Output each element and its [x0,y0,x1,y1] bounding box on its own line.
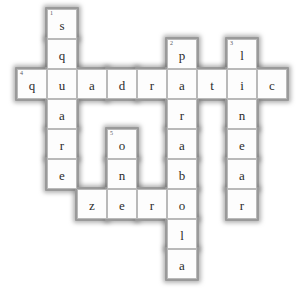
crossword-cell[interactable]: r [137,189,167,219]
cell-letter: r [168,100,196,128]
cell-letter: o [108,130,136,158]
crossword-cell[interactable]: d [107,69,137,99]
crossword-cell[interactable]: a [47,99,77,129]
crossword-cell[interactable]: n [227,99,257,129]
crossword-cell[interactable]: 4q [17,69,47,99]
cell-letter: i [228,70,256,98]
crossword-cell[interactable]: l [167,219,197,249]
cell-letter: q [18,70,46,98]
crossword-cell[interactable]: c [257,69,287,99]
cell-letter: a [168,70,196,98]
cell-letter: n [228,100,256,128]
crossword-cell[interactable]: 5o [107,129,137,159]
crossword-cell[interactable]: r [167,99,197,129]
cell-letter: r [228,190,256,218]
crossword-cell[interactable]: n [107,159,137,189]
crossword-cell[interactable]: a [167,249,197,279]
cell-letter: a [48,100,76,128]
cell-letter: c [258,70,286,98]
cell-letter: q [48,40,76,68]
crossword-cell[interactable]: r [137,69,167,99]
crossword-cell[interactable]: o [167,189,197,219]
crossword-cell[interactable]: q [47,39,77,69]
crossword-cell[interactable]: e [47,159,77,189]
cell-letter: r [138,190,166,218]
crossword-cell[interactable]: a [167,129,197,159]
cell-letter: u [48,70,76,98]
cell-letter: r [48,130,76,158]
cell-letter: e [228,130,256,158]
cell-letter: d [108,70,136,98]
crossword-cell[interactable]: z [77,189,107,219]
cell-letter: a [168,130,196,158]
crossword-cell[interactable]: e [227,129,257,159]
cell-letter: l [168,220,196,248]
cell-letter: a [78,70,106,98]
cell-letter: r [138,70,166,98]
crossword-cell[interactable]: 3l [227,39,257,69]
crossword-cell[interactable]: a [227,159,257,189]
crossword-cell[interactable]: a [77,69,107,99]
crossword-cell[interactable]: i [227,69,257,99]
crossword-cell[interactable]: r [227,189,257,219]
crossword-cell[interactable]: e [107,189,137,219]
cell-letter: e [48,160,76,188]
crossword-cell[interactable]: a [167,69,197,99]
crossword-cell[interactable]: b [167,159,197,189]
cell-letter: l [228,40,256,68]
crossword-cell[interactable]: 2p [167,39,197,69]
cell-letter: n [108,160,136,188]
cell-letter: o [168,190,196,218]
crossword-grid: 1sq2p3l4quadraticarnr5oaeenbazerorla [0,0,296,295]
cell-letter: a [168,250,196,278]
crossword-cell[interactable]: 1s [47,9,77,39]
cell-letter: t [198,70,226,98]
crossword-cell[interactable]: r [47,129,77,159]
cell-letter: b [168,160,196,188]
crossword-cell[interactable]: u [47,69,77,99]
cell-letter: a [228,160,256,188]
cell-letter: z [78,190,106,218]
cell-letter: e [108,190,136,218]
cell-letter: s [48,10,76,38]
cell-letter: p [168,40,196,68]
crossword-cell[interactable]: t [197,69,227,99]
